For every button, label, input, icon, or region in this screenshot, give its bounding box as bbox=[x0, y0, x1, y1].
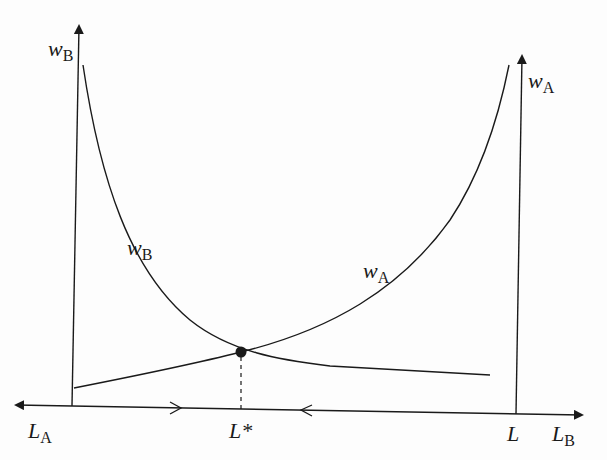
wB-axis-label: wB bbox=[48, 38, 73, 64]
L-label: L bbox=[507, 423, 519, 445]
diagram-canvas bbox=[0, 0, 607, 460]
horizontal-axis-left-arrow bbox=[16, 405, 72, 406]
right-vertical-axis bbox=[516, 56, 522, 414]
Lstar-label: L* bbox=[229, 420, 252, 442]
wA-axis-label: wA bbox=[528, 70, 554, 96]
wB-curve-label: wB bbox=[127, 237, 152, 263]
LB-label: LB bbox=[552, 423, 575, 449]
horizontal-axis bbox=[72, 406, 582, 415]
left-vertical-axis bbox=[72, 26, 79, 406]
equilibrium-point bbox=[236, 347, 247, 358]
wA-curve bbox=[74, 65, 509, 388]
wA-curve-label: wA bbox=[363, 260, 389, 286]
wB-curve bbox=[83, 65, 490, 375]
LA-label: LA bbox=[28, 420, 52, 446]
